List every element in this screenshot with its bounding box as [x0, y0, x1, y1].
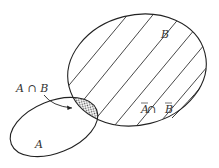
set-b-outline	[56, 0, 218, 140]
complement-op-text: ∩	[147, 103, 156, 116]
label-set-a: A	[34, 138, 43, 151]
intersection-region	[56, 0, 218, 140]
arrowhead-icon	[67, 106, 72, 111]
label-intersection: A ∩ B	[15, 82, 48, 95]
b-hatch-region	[40, 0, 219, 160]
set-a-outline	[2, 86, 107, 168]
label-set-b: B	[160, 28, 169, 41]
label-complement-intersection: A ∩ B	[140, 103, 173, 116]
venn-diagram: B A ∩ B A A ∩ B	[0, 0, 219, 168]
complement-b-text: B	[164, 103, 173, 116]
